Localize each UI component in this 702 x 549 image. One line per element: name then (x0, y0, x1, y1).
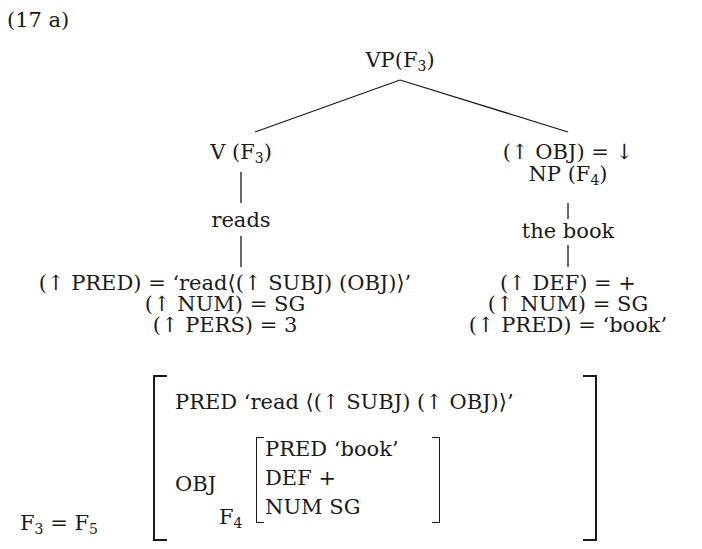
inner-row-def: DEF + (265, 466, 336, 490)
obj-attr: OBJ (175, 472, 216, 496)
root-category: VP (365, 48, 394, 72)
np-word: the book (522, 219, 615, 243)
inner-row-pred: PRED ‘book’ (265, 437, 399, 461)
obj-annotation: (↑ OBJ) = ↓ (503, 140, 633, 164)
inner-left-bracket (256, 437, 264, 523)
pred-attr: PRED (175, 390, 237, 414)
outer-right-bracket (583, 375, 597, 541)
pred-value: ‘read ⟨(↑ SUBJ) (↑ OBJ)⟩’ (244, 390, 514, 414)
outer-left-bracket (153, 375, 167, 541)
fstructure-label: F3 = F5 (20, 511, 98, 535)
inner-row-num: NUM SG (265, 495, 360, 519)
verb-node: V (F3) (210, 140, 272, 164)
np-node: NP (F4) (528, 162, 607, 186)
np-equation-pred: (↑ PRED) = ‘book’ (469, 313, 668, 337)
tree-root-node: VP(F3) (365, 48, 434, 72)
verb-word: reads (211, 208, 270, 232)
inner-fstructure-label: F4 (219, 505, 243, 529)
inner-right-bracket (432, 437, 440, 523)
verb-equation-pers: (↑ PERS) = 3 (153, 313, 298, 337)
fstructure-pred: PRED ‘read ⟨(↑ SUBJ) (↑ OBJ)⟩’ (175, 390, 514, 414)
